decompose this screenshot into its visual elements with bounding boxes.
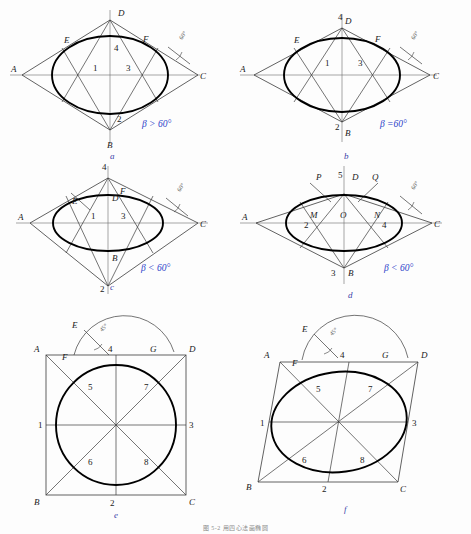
svg-text:2: 2 [322, 484, 327, 494]
svg-text:D: D [111, 193, 119, 203]
svg-text:B: B [348, 268, 354, 278]
svg-text:6: 6 [302, 455, 307, 465]
svg-text:d: d [348, 290, 353, 300]
svg-text:8: 8 [144, 457, 149, 467]
svg-text:7: 7 [144, 382, 149, 392]
svg-text:β > 60°: β > 60° [141, 119, 171, 129]
svg-text:45°: 45° [328, 326, 339, 337]
svg-text:A: A [17, 212, 24, 222]
figure-a: A B C D E F 1 2 3 4 60° β > 60° a [0, 2, 235, 162]
svg-text:A: A [239, 64, 246, 74]
svg-text:D: D [117, 8, 125, 18]
figure-b: A B C D E F 1 2 3 4 60° β =60° b [232, 2, 471, 162]
svg-text:B: B [345, 128, 351, 138]
svg-text:C: C [200, 71, 207, 81]
svg-text:E: E [71, 320, 78, 330]
svg-text:F: F [119, 186, 126, 196]
svg-text:3: 3 [412, 418, 417, 428]
figure-c: A B C D E F 4 1 2 3 60° β < 60° c [8, 158, 235, 303]
svg-text:B: B [34, 497, 40, 507]
svg-text:e: e [114, 510, 118, 520]
svg-text:8: 8 [360, 455, 365, 465]
svg-text:60°: 60° [178, 30, 188, 41]
svg-text:M: M [309, 210, 318, 220]
svg-text:4: 4 [338, 12, 343, 22]
svg-text:C: C [433, 71, 440, 81]
svg-text:5: 5 [88, 382, 93, 392]
svg-text:E: E [63, 35, 70, 45]
svg-text:1: 1 [260, 418, 265, 428]
figure-e: A B C D E F G 4 1 3 2 5 7 6 8 45° e [14, 300, 235, 520]
svg-text:C: C [400, 484, 407, 494]
svg-text:B: B [107, 140, 113, 150]
svg-text:4: 4 [102, 162, 107, 172]
svg-text:3: 3 [358, 58, 363, 68]
svg-text:2: 2 [100, 284, 105, 294]
svg-text:60°: 60° [176, 182, 186, 193]
svg-text:5: 5 [338, 170, 343, 180]
svg-text:6: 6 [88, 457, 93, 467]
svg-text:D: D [188, 344, 196, 354]
svg-text:N: N [373, 210, 381, 220]
svg-text:1: 1 [325, 58, 330, 68]
svg-text:β =60°: β =60° [379, 119, 407, 129]
svg-text:D: D [344, 16, 352, 26]
svg-text:3: 3 [189, 420, 194, 430]
svg-text:A: A [33, 344, 40, 354]
svg-text:D: D [420, 350, 428, 360]
svg-text:7: 7 [368, 384, 373, 394]
svg-text:3: 3 [126, 63, 131, 73]
svg-text:F: F [291, 358, 298, 368]
svg-text:C: C [434, 219, 441, 229]
svg-text:O: O [340, 210, 347, 220]
svg-text:F: F [374, 34, 381, 44]
sheet-footer-note: 图 5-2 用四心法画椭圆 [0, 523, 471, 532]
svg-text:C: C [189, 497, 196, 507]
svg-text:B: B [246, 482, 252, 492]
svg-text:B: B [112, 253, 118, 263]
svg-text:3: 3 [121, 211, 126, 221]
svg-text:A: A [263, 350, 270, 360]
svg-text:E: E [301, 324, 308, 334]
svg-text:2: 2 [117, 114, 122, 124]
svg-text:45°: 45° [98, 322, 109, 333]
svg-text:D: D [351, 172, 359, 182]
svg-text:Q: Q [372, 172, 379, 182]
figure-f: A B C D E F G 4 1 3 2 5 7 6 8 45° f [240, 300, 465, 520]
svg-text:2: 2 [110, 498, 115, 508]
svg-text:3: 3 [331, 268, 336, 278]
figure-d: A B C D M N O P Q 5 2 4 3 60° β < 60° d [232, 158, 471, 303]
svg-text:f: f [344, 504, 348, 514]
svg-text:5: 5 [316, 384, 321, 394]
svg-text:60°: 60° [410, 180, 420, 191]
svg-text:1: 1 [91, 211, 96, 221]
svg-text:C: C [200, 219, 207, 229]
svg-text:G: G [150, 344, 157, 354]
svg-text:2: 2 [304, 220, 309, 230]
svg-text:1: 1 [38, 420, 43, 430]
svg-text:P: P [315, 172, 322, 182]
svg-text:G: G [382, 350, 389, 360]
svg-text:2: 2 [335, 122, 340, 132]
svg-text:E: E [293, 35, 300, 45]
svg-text:E: E [71, 196, 78, 206]
svg-text:F: F [61, 352, 68, 362]
svg-text:1: 1 [93, 63, 98, 73]
svg-text:60°: 60° [410, 30, 420, 41]
figure-sheet: A B C D E F 1 2 3 4 60° β > 60° a A B C … [0, 0, 471, 534]
svg-text:F: F [142, 34, 149, 44]
svg-text:4: 4 [382, 220, 387, 230]
svg-text:4: 4 [108, 344, 113, 354]
svg-text:β < 60°: β < 60° [383, 263, 413, 273]
svg-text:β < 60°: β < 60° [140, 263, 170, 273]
svg-text:A: A [241, 212, 248, 222]
svg-text:4: 4 [340, 350, 345, 360]
svg-text:4: 4 [114, 43, 119, 53]
svg-text:c: c [110, 282, 114, 292]
svg-text:A: A [10, 64, 17, 74]
